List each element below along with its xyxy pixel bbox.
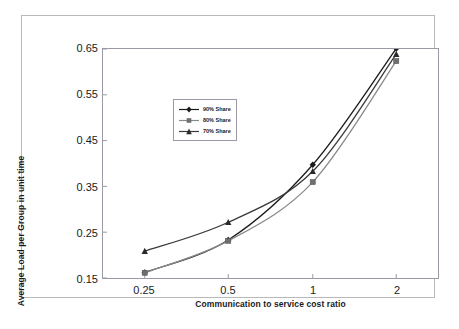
y-tick-label: 0.35 (64, 181, 98, 193)
x-tick-label: 1 (288, 284, 338, 296)
x-axis-tick-labels: 0.25 0.5 1 2 (102, 284, 439, 300)
square-marker-icon (178, 116, 200, 125)
y-tick-label: 0.65 (64, 42, 98, 54)
x-tick-label: 2 (372, 284, 422, 296)
legend-item-90-share: 90% Share (178, 104, 231, 114)
y-axis-tick-labels: 0.65 0.55 0.45 0.35 0.25 0.15 (60, 48, 98, 279)
legend-label: 70% Share (203, 127, 231, 136)
triangle-marker-icon (178, 127, 200, 136)
legend-item-80-share: 80% Share (178, 115, 231, 125)
chart-legend: 90% Share 80% Share 70% (173, 99, 237, 141)
y-tick-label: 0.25 (64, 227, 98, 239)
x-tick-label: 0.25 (119, 284, 169, 296)
legend-label: 90% Share (203, 105, 231, 114)
x-tick-label: 0.5 (203, 284, 253, 296)
chart-outer-frame: Average Load per Group in unit time 0.65… (21, 15, 435, 298)
diamond-marker-icon (178, 105, 200, 114)
y-tick-label: 0.55 (64, 88, 98, 100)
legend-label: 80% Share (203, 116, 231, 125)
y-axis-title: Average Load per Group in unit time (16, 116, 26, 329)
chart-figure: Average Load per Group in unit time 0.65… (0, 0, 459, 329)
plot-area (102, 48, 439, 279)
legend-item-70-share: 70% Share (178, 126, 231, 136)
y-tick-label: 0.15 (64, 273, 98, 285)
x-axis-title: Communication to service cost ratio (102, 299, 439, 309)
series-canvas (103, 49, 438, 278)
y-tick-label: 0.45 (64, 134, 98, 146)
